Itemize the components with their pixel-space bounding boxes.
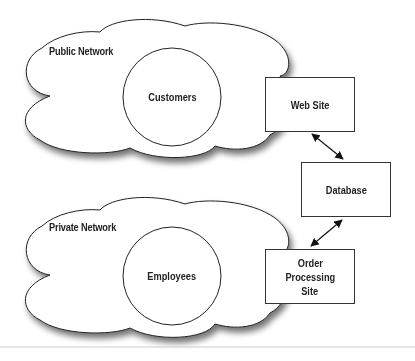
employees-label: Employees <box>123 267 221 285</box>
customers-label: Customers <box>123 88 221 106</box>
database-order-arrow <box>311 220 342 246</box>
web-site-box: Web Site <box>265 77 355 132</box>
database-box: Database <box>301 162 391 217</box>
websit-database-arrow <box>312 134 343 159</box>
public-network-label: Public Network <box>49 45 113 57</box>
private-network-label: Private Network <box>49 221 116 233</box>
order-processing-site-box: Order Processing Site <box>265 249 355 304</box>
